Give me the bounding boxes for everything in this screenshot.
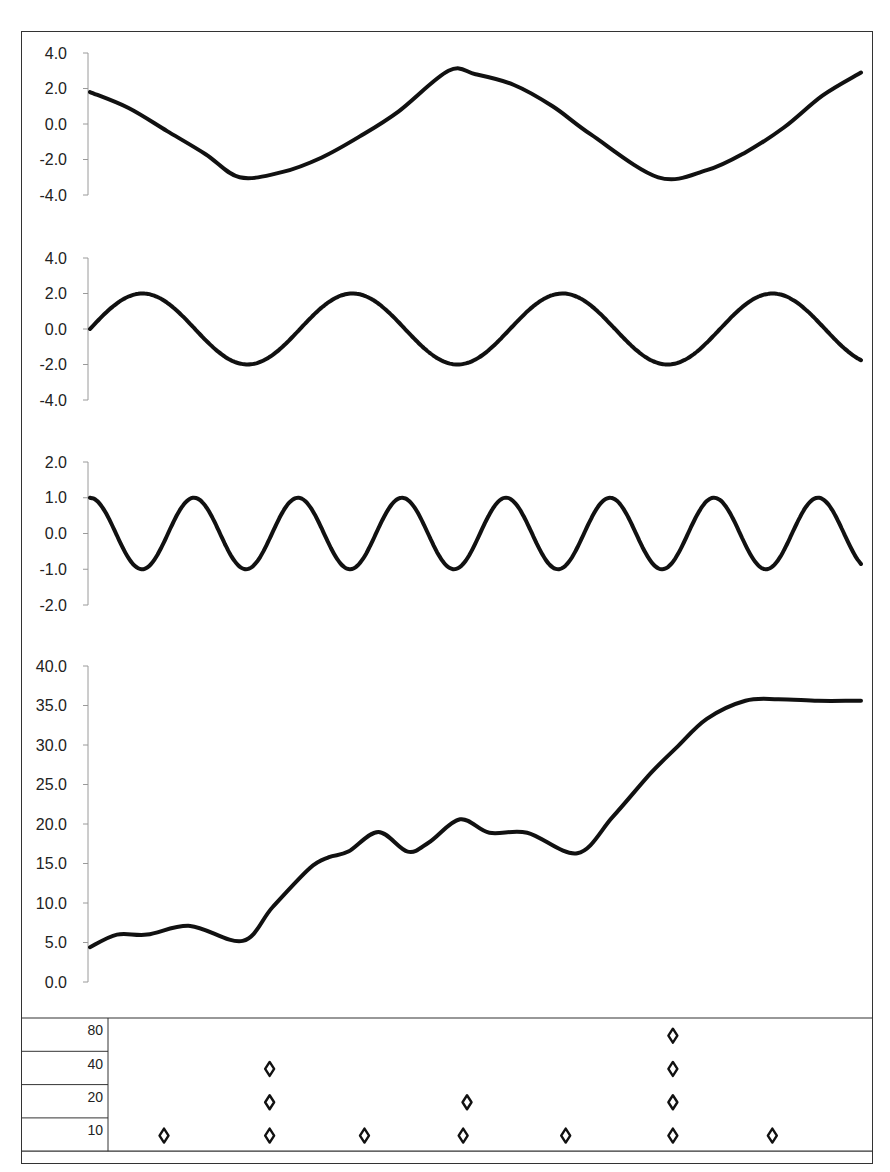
data-line — [90, 294, 861, 365]
diamond-marker-icon — [463, 1095, 472, 1109]
diamond-marker-icon — [360, 1129, 369, 1143]
data-line — [90, 68, 861, 179]
diamond-marker-icon — [265, 1095, 274, 1109]
y-tick-label: -1.0 — [39, 561, 67, 578]
y-tick-label: 1.0 — [45, 489, 67, 506]
diamond-marker-icon — [668, 1062, 677, 1076]
y-tick-label: 10.0 — [36, 895, 67, 912]
diamond-marker-icon — [668, 1095, 677, 1109]
chart-panel-1: 4.02.00.0-2.0-4.0 — [39, 45, 861, 204]
chart-panel-3: 2.01.00.0-1.0-2.0 — [39, 454, 861, 614]
y-tick-label: -4.0 — [39, 187, 67, 204]
y-tick-label: 35.0 — [36, 697, 67, 714]
y-tick-label: 4.0 — [45, 45, 67, 62]
data-line — [90, 699, 861, 947]
y-tick-label: 4.0 — [45, 250, 67, 267]
figure-svg: 4.02.00.0-2.0-4.0 4.02.00.0-2.0-4.0 2.01… — [0, 0, 890, 1172]
diamond-marker-icon — [459, 1129, 468, 1143]
y-tick-label: 0.0 — [45, 116, 67, 133]
y-tick-label: 25.0 — [36, 776, 67, 793]
y-tick-label: 2.0 — [45, 80, 67, 97]
row-label-10: 10 — [21, 1122, 103, 1138]
row-label-80: 80 — [21, 1022, 103, 1038]
y-tick-label: -2.0 — [39, 356, 67, 373]
y-tick-label: 0.0 — [45, 525, 67, 542]
diamond-marker-icon — [668, 1129, 677, 1143]
y-tick-label: 0.0 — [45, 321, 67, 338]
y-tick-label: -2.0 — [39, 151, 67, 168]
occurrence-grid — [21, 1018, 873, 1151]
y-tick-label: 0.0 — [45, 974, 67, 991]
diamond-marker-icon — [561, 1129, 570, 1143]
y-tick-label: -2.0 — [39, 597, 67, 614]
y-tick-label: 2.0 — [45, 285, 67, 302]
y-tick-label: 20.0 — [36, 816, 67, 833]
diamond-marker-icon — [160, 1129, 169, 1143]
chart-panel-4: 40.035.030.025.020.015.010.05.00.0 — [36, 658, 861, 991]
row-label-20: 20 — [21, 1089, 103, 1105]
diamond-marker-icon — [668, 1029, 677, 1043]
y-tick-label: 2.0 — [45, 454, 67, 471]
y-tick-label: -4.0 — [39, 392, 67, 409]
y-tick-label: 40.0 — [36, 658, 67, 675]
diamond-marker-icon — [265, 1062, 274, 1076]
y-tick-label: 15.0 — [36, 855, 67, 872]
chart-panel-2: 4.02.00.0-2.0-4.0 — [39, 250, 861, 409]
diamond-marker-icon — [768, 1129, 777, 1143]
diamond-marker-icon — [265, 1129, 274, 1143]
row-label-40: 40 — [21, 1056, 103, 1072]
y-tick-label: 30.0 — [36, 737, 67, 754]
y-tick-label: 5.0 — [45, 934, 67, 951]
data-line — [90, 498, 861, 569]
